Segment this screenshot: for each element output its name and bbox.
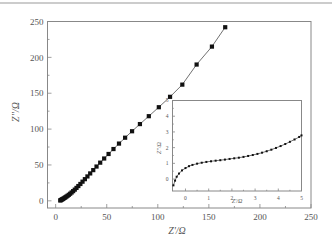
data-point-marker — [238, 157, 240, 159]
x-tick-label: 200 — [253, 212, 267, 222]
data-point-marker — [224, 159, 226, 161]
data-point-marker — [301, 134, 303, 136]
data-point-marker — [178, 173, 180, 175]
x-tick-label: 0 — [53, 212, 58, 222]
data-point-marker — [94, 164, 98, 168]
nyquist-chart: 050100150200250 050100150200250 Z'/Ω Z''… — [0, 0, 332, 250]
data-point-marker — [138, 122, 142, 126]
y-tick-label: 0 — [39, 196, 44, 206]
data-point-marker — [196, 163, 198, 165]
data-point-marker — [210, 160, 212, 162]
main-x-axis-title: Z'/Ω — [168, 225, 186, 236]
data-point-marker — [266, 150, 268, 152]
y-tick-label: 250 — [30, 17, 44, 27]
data-point-marker — [195, 62, 199, 66]
data-point-marker — [117, 141, 121, 145]
data-point-marker — [102, 156, 106, 160]
data-point-marker — [229, 158, 231, 160]
y-tick-label: 50 — [35, 160, 45, 170]
data-point-marker — [284, 143, 286, 145]
y-tick-label: 200 — [30, 53, 44, 63]
data-point-marker — [147, 114, 151, 118]
x-tick-label: 50 — [102, 212, 112, 222]
x-tick-label: 150 — [202, 212, 216, 222]
x-tick-label: 250 — [304, 212, 318, 222]
data-point-marker — [280, 145, 282, 147]
data-point-marker — [256, 153, 258, 155]
data-point-marker — [223, 25, 227, 29]
data-point-marker — [201, 162, 203, 164]
y-tick-label: 1 — [166, 160, 169, 166]
data-point-marker — [123, 136, 127, 140]
data-point-marker — [168, 95, 172, 99]
x-tick-label: 5 — [300, 195, 303, 201]
data-point-marker — [205, 161, 207, 163]
y-tick-label: 5 — [166, 97, 169, 103]
data-point-marker — [191, 164, 193, 166]
data-point-marker — [233, 157, 235, 159]
inset-y-axis-title: Z''/Ω — [156, 141, 162, 154]
data-point-marker — [181, 169, 183, 171]
data-point-marker — [261, 152, 263, 154]
data-point-marker — [270, 149, 272, 151]
data-point-marker — [130, 129, 134, 133]
y-tick-label: 4 — [166, 113, 169, 119]
x-tick-label: 100 — [151, 212, 165, 222]
data-point-marker — [252, 154, 254, 156]
data-point-marker — [294, 138, 296, 140]
data-point-marker — [215, 160, 217, 162]
x-tick-label: 0 — [184, 195, 187, 201]
data-point-marker — [106, 152, 110, 156]
data-point-marker — [275, 147, 277, 149]
y-tick-label: 150 — [30, 88, 44, 98]
data-point-marker — [219, 159, 221, 161]
data-point-marker — [180, 83, 184, 87]
x-tick-label: 4 — [277, 195, 280, 201]
data-point-marker — [298, 136, 300, 138]
inset-x-axis-title: Z'/Ω — [232, 198, 243, 204]
y-tick-label: 100 — [30, 124, 44, 134]
data-point-marker — [247, 155, 249, 157]
data-point-marker — [172, 184, 174, 186]
data-point-marker — [176, 176, 178, 178]
data-point-marker — [91, 168, 95, 172]
data-point-marker — [98, 161, 102, 165]
data-point-marker — [242, 156, 244, 158]
data-point-marker — [157, 105, 161, 109]
x-tick-label: 3 — [254, 195, 257, 201]
data-point-marker — [184, 167, 186, 169]
data-point-marker — [210, 45, 214, 49]
data-point-marker — [111, 147, 115, 151]
main-x-ticks: 050100150200250 — [53, 204, 318, 222]
main-y-ticks: 050100150200250 — [30, 17, 52, 206]
data-point-marker — [174, 180, 176, 182]
data-point-marker — [289, 141, 291, 143]
y-tick-label: 0 — [166, 176, 169, 182]
y-tick-label: 3 — [166, 129, 169, 135]
main-y-axis-title: Z''/Ω — [10, 102, 21, 122]
y-tick-label: 2 — [166, 145, 169, 151]
x-tick-label: 1 — [207, 195, 210, 201]
data-point-marker — [188, 165, 190, 167]
